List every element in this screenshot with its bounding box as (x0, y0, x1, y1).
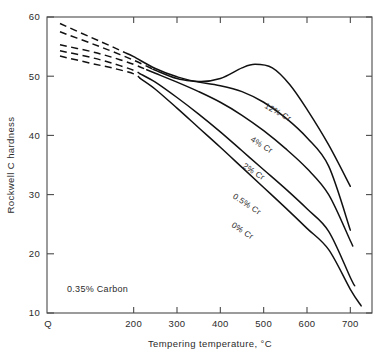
carbon-content-annotation: 0.35% Carbon (67, 284, 128, 294)
y-tick-label: 60 (29, 11, 40, 22)
x-tick-label: 700 (342, 318, 359, 329)
y-axis-title: Rockwell C hardness (5, 117, 16, 214)
x-tick-label: 600 (299, 318, 316, 329)
y-tick-label: 10 (29, 307, 40, 318)
x-tick-label: 400 (212, 318, 229, 329)
x-axis-title: Tempering temperature, °C (148, 338, 272, 349)
x-tick-label: 200 (125, 318, 142, 329)
y-tick-label: 40 (29, 130, 40, 141)
y-tick-label: 20 (29, 248, 40, 259)
chart-background (0, 0, 391, 359)
x-tick-label: 500 (255, 318, 272, 329)
y-tick-label: 30 (29, 189, 40, 200)
x-axis-origin-label: Q (44, 318, 52, 329)
y-tick-label: 50 (29, 71, 40, 82)
x-tick-label: 300 (169, 318, 186, 329)
chart-figure: 200300400500600700 102030405060 12% Cr4%… (0, 0, 391, 359)
tempering-hardness-chart: 200300400500600700 102030405060 12% Cr4%… (0, 0, 391, 359)
